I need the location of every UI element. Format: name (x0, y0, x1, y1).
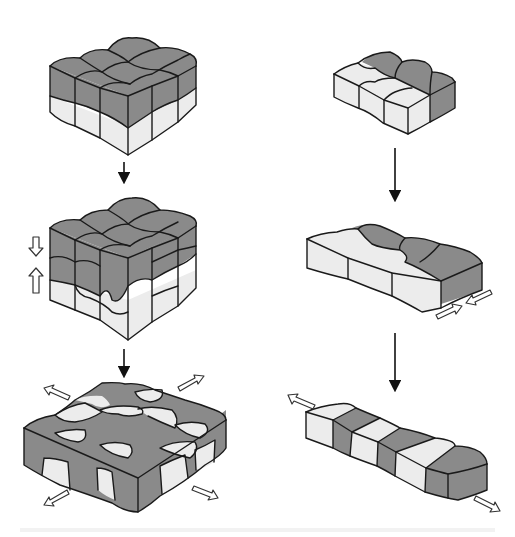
hollow-arrow-up-right-icon (178, 375, 204, 391)
vertical-compression-arrows (29, 237, 43, 293)
hollow-arrow-down-icon (29, 237, 43, 256)
right-stage1-block (334, 52, 455, 134)
left-stage1-cube-stack (50, 38, 196, 155)
hollow-arrow-up-icon (29, 268, 43, 293)
diagram-canvas (0, 0, 515, 537)
hollow-arrow-down-right-icon (474, 496, 500, 512)
hollow-arrow-up-left-icon (44, 385, 70, 400)
compression-diagram (0, 0, 515, 537)
right-stage2-compressed-block (307, 224, 482, 312)
right-stage3-alternating-bar (306, 404, 487, 501)
caption-trace (20, 528, 495, 532)
left-stage3-checkerboard-slab (24, 383, 226, 512)
hollow-arrow-up-left-icon (288, 394, 315, 409)
hollow-arrow-down-right-icon (192, 486, 218, 500)
left-stage2-compressed-stack (50, 198, 196, 340)
hollow-arrow-down-left-icon (44, 490, 69, 506)
